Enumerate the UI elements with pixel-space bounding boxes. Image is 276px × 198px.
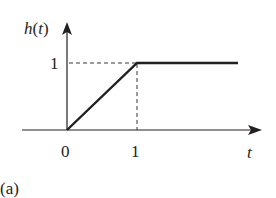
series-h-t — [67, 63, 238, 130]
x-axis-label: t — [247, 143, 253, 162]
figure-caption: (a) — [0, 179, 19, 198]
ramp-function-chart: h(t) 1 0 1 t (a) — [0, 0, 276, 198]
tick-y-1: 1 — [50, 54, 59, 73]
tick-x-0: 0 — [61, 142, 70, 161]
y-axis-label: h(t) — [24, 19, 49, 38]
tick-x-1: 1 — [131, 142, 140, 161]
